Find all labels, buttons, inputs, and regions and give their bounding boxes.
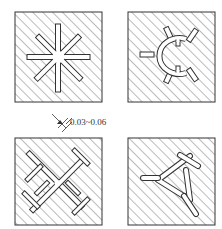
dimension-callout [52,114,72,132]
diagram-canvas [0,0,222,229]
dimension-label: 0.03~0.06 [70,118,106,127]
panel-c [15,114,102,225]
panel-b [128,12,215,102]
panel-d [128,138,215,225]
panel-d-frame [128,138,215,225]
panel-a [15,12,102,102]
